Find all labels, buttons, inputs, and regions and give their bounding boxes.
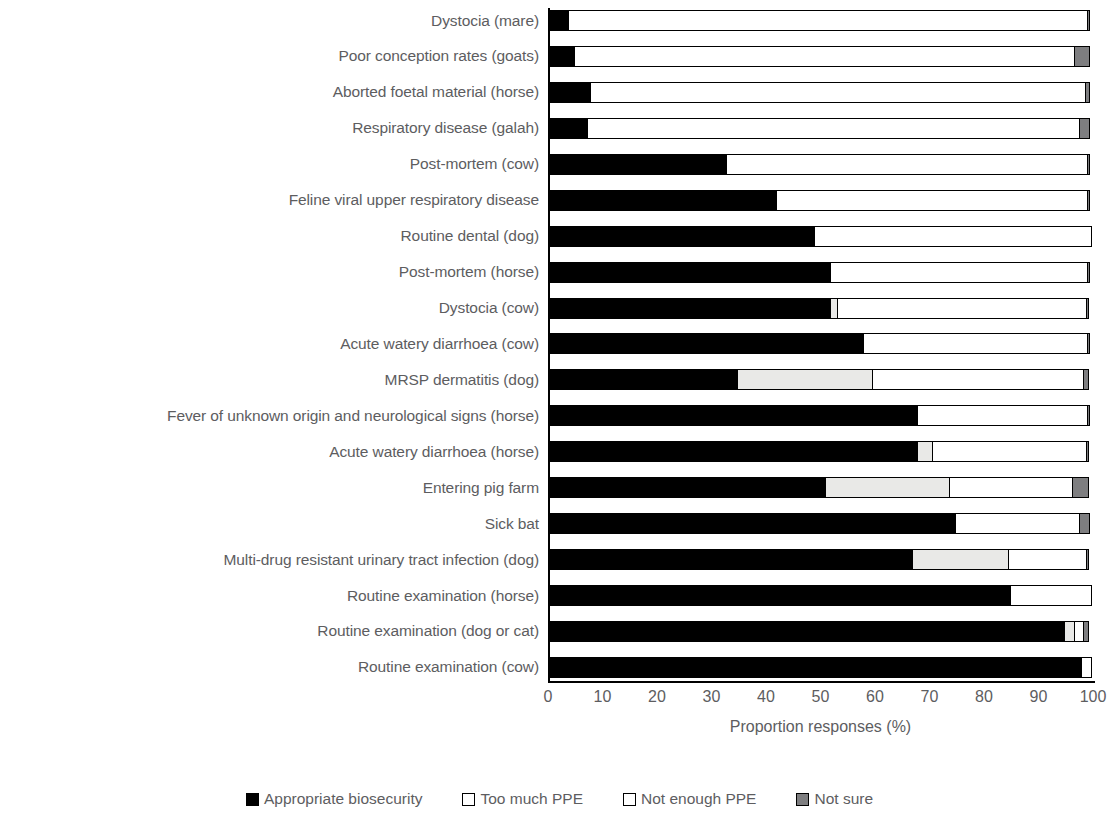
bar-segment-not-enough-ppe[interactable] [574,46,1075,67]
category-label: Poor conception rates (goats) [0,47,548,65]
bar-row: Post-mortem (cow) [0,152,1100,177]
bar-segment-appropriate-biosecurity[interactable] [548,513,957,534]
stacked-bar[interactable] [548,513,1090,534]
legend-item[interactable]: Appropriate biosecurity [246,790,423,808]
bar-segment-not-enough-ppe[interactable] [917,405,1089,426]
x-tick-label: 0 [544,688,553,706]
stacked-bar[interactable] [548,657,1092,678]
bar-segment-appropriate-biosecurity[interactable] [548,477,826,498]
bar-segment-appropriate-biosecurity[interactable] [548,190,777,211]
bar-segment-appropriate-biosecurity[interactable] [548,585,1011,606]
bar-segment-not-sure[interactable] [1083,369,1088,390]
bar-segment-appropriate-biosecurity[interactable] [548,82,592,103]
stacked-bar[interactable] [548,190,1090,211]
bar-segment-not-sure[interactable] [1087,333,1090,354]
stacked-bar[interactable] [548,585,1092,606]
bar-segment-not-sure[interactable] [1086,549,1089,570]
bar-segment-not-sure[interactable] [1074,46,1090,67]
bar-segment-not-sure[interactable] [1087,405,1090,426]
bar-row: Fever of unknown origin and neurological… [0,403,1100,428]
bar-segment-appropriate-biosecurity[interactable] [548,333,864,354]
stacked-bar[interactable] [548,118,1090,139]
bar-segment-appropriate-biosecurity[interactable] [548,262,831,283]
stacked-bar[interactable] [548,226,1092,247]
bar-segment-not-sure[interactable] [1087,190,1090,211]
stacked-bar[interactable] [548,46,1090,67]
bar-segment-appropriate-biosecurity[interactable] [548,226,815,247]
bar-segment-too-much-ppe[interactable] [917,441,933,462]
bar-segment-appropriate-biosecurity[interactable] [548,405,919,426]
stacked-bar[interactable] [548,10,1090,31]
bar-segment-appropriate-biosecurity[interactable] [548,549,913,570]
bar-row: Acute watery diarrhoea (horse) [0,439,1100,464]
bar-segment-appropriate-biosecurity[interactable] [548,118,589,139]
x-axis-ticks: 0102030405060708090100 [548,688,1093,712]
stacked-bar[interactable] [548,154,1090,175]
bar-segment-appropriate-biosecurity[interactable] [548,154,728,175]
bar-segment-not-enough-ppe[interactable] [863,333,1089,354]
bar-track [548,439,1093,464]
stacked-bar[interactable] [548,405,1090,426]
bar-segment-appropriate-biosecurity[interactable] [548,10,570,31]
stacked-bar[interactable] [548,621,1089,642]
bar-segment-not-enough-ppe[interactable] [872,369,1085,390]
stacked-bar[interactable] [548,441,1089,462]
stacked-bar[interactable] [548,298,1089,319]
bar-segment-not-enough-ppe[interactable] [949,477,1074,498]
bar-segment-not-enough-ppe[interactable] [1081,657,1092,678]
stacked-bar-chart: Dystocia (mare)Poor conception rates (go… [0,0,1119,827]
bar-row: Routine examination (cow) [0,655,1100,680]
bar-segment-not-sure[interactable] [1085,82,1090,103]
bar-segment-not-enough-ppe[interactable] [726,154,1088,175]
bar-track [548,403,1093,428]
bar-segment-appropriate-biosecurity[interactable] [548,369,739,390]
bar-track [548,8,1093,33]
category-label: Fever of unknown origin and neurological… [0,407,548,425]
legend-label: Appropriate biosecurity [264,790,423,808]
stacked-bar[interactable] [548,369,1089,390]
bar-segment-too-much-ppe[interactable] [737,369,873,390]
bar-segment-appropriate-biosecurity[interactable] [548,657,1082,678]
bar-track [548,224,1093,249]
bar-segment-not-sure[interactable] [1072,477,1088,498]
legend-item[interactable]: Too much PPE [462,790,583,808]
bar-segment-not-sure[interactable] [1087,262,1090,283]
bar-segment-not-enough-ppe[interactable] [590,82,1086,103]
bar-segment-too-much-ppe[interactable] [912,549,1010,570]
bar-segment-not-enough-ppe[interactable] [568,10,1088,31]
bar-segment-not-sure[interactable] [1083,621,1088,642]
category-label: Routine examination (horse) [0,587,548,605]
stacked-bar[interactable] [548,549,1089,570]
bar-segment-not-enough-ppe[interactable] [814,226,1092,247]
x-tick-label: 100 [1080,688,1107,706]
bar-segment-appropriate-biosecurity[interactable] [548,441,919,462]
bar-segment-not-enough-ppe[interactable] [955,513,1080,534]
bar-segment-not-enough-ppe[interactable] [776,190,1089,211]
x-axis-line [548,681,1095,683]
bar-segment-not-sure[interactable] [1079,118,1090,139]
bar-segment-not-enough-ppe[interactable] [1008,549,1087,570]
bar-row: Entering pig farm [0,475,1100,500]
bar-segment-appropriate-biosecurity[interactable] [548,46,575,67]
stacked-bar[interactable] [548,82,1090,103]
bar-segment-too-much-ppe[interactable] [825,477,950,498]
bar-segment-not-enough-ppe[interactable] [587,118,1080,139]
bar-segment-not-sure[interactable] [1086,441,1089,462]
bar-segment-not-enough-ppe[interactable] [932,441,1087,462]
stacked-bar[interactable] [548,262,1090,283]
bar-segment-not-enough-ppe[interactable] [1010,585,1092,606]
bar-track [548,583,1093,608]
bar-segment-not-sure[interactable] [1086,298,1089,319]
x-axis-title: Proportion responses (%) [548,718,1093,736]
legend-item[interactable]: Not sure [796,790,873,808]
bar-segment-not-sure[interactable] [1079,513,1090,534]
bar-segment-not-enough-ppe[interactable] [830,262,1089,283]
bar-segment-appropriate-biosecurity[interactable] [548,298,831,319]
stacked-bar[interactable] [548,477,1089,498]
bar-segment-not-sure[interactable] [1087,10,1090,31]
bar-segment-appropriate-biosecurity[interactable] [548,621,1066,642]
bar-segment-not-sure[interactable] [1087,154,1090,175]
bar-segment-not-enough-ppe[interactable] [837,298,1088,319]
legend-item[interactable]: Not enough PPE [623,790,756,808]
stacked-bar[interactable] [548,333,1090,354]
